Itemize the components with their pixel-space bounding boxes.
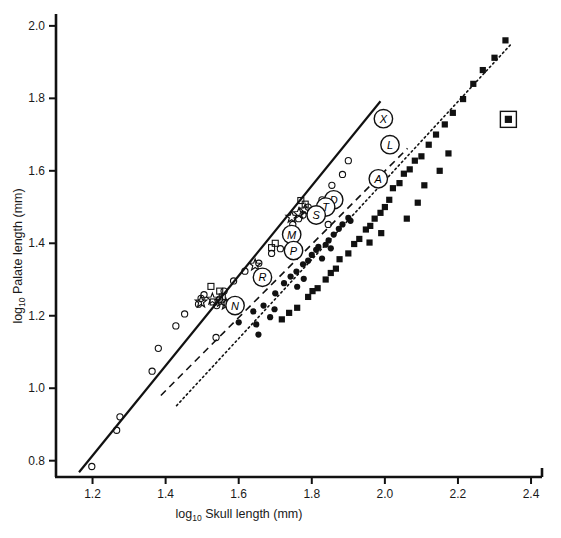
y-tick-label: 1.6 <box>28 164 45 178</box>
point-filled-square <box>412 158 418 164</box>
point-filled-circle <box>309 252 315 258</box>
point-open-circle <box>182 311 188 317</box>
point-filled-square <box>333 266 339 272</box>
point-open-circle <box>268 250 274 256</box>
point-filled-square <box>279 316 285 322</box>
point-filled-circle <box>267 314 273 320</box>
point-filled-circle <box>271 306 277 312</box>
group-label-l: L <box>381 136 399 154</box>
point-filled-square <box>382 204 388 210</box>
point-filled-circle <box>287 274 293 280</box>
axis-layer: 0.81.01.21.41.61.82.01.21.41.61.82.02.22… <box>28 14 542 501</box>
group-label-a: A <box>369 170 387 188</box>
point-filled-square <box>367 223 373 229</box>
point-filled-circle <box>301 276 307 282</box>
series-filled-square <box>279 37 509 322</box>
point-filled-square <box>386 197 392 203</box>
point-filled-square <box>305 294 311 300</box>
point-open-circle <box>345 158 351 164</box>
y-tick-label: 1.4 <box>28 236 45 250</box>
y-tick-label: 2.0 <box>28 19 45 33</box>
point-filled-square <box>450 110 456 116</box>
point-filled-square <box>404 216 410 222</box>
point-open-circle <box>173 323 179 329</box>
y-tick-label: 1.8 <box>28 91 45 105</box>
point-filled-square <box>480 67 486 73</box>
point-filled-square <box>356 236 362 242</box>
point-filled-circle <box>294 284 300 290</box>
point-filled-circle <box>319 255 325 261</box>
x-axis-title: log10 Skull length (mm) <box>176 507 303 523</box>
point-filled-square <box>407 166 413 172</box>
x-tick-label: 2.0 <box>377 487 394 501</box>
group-label-letter: L <box>387 139 393 151</box>
point-filled-square <box>418 153 424 159</box>
point-filled-circle <box>339 221 345 227</box>
point-filled-circle <box>300 261 306 267</box>
point-filled-circle <box>325 237 331 243</box>
point-open-circle <box>89 463 95 469</box>
x-tick-label: 1.6 <box>230 487 247 501</box>
point-filled-square <box>426 142 432 148</box>
dashed-fit-line <box>161 148 408 395</box>
point-filled-square <box>345 250 351 256</box>
point-filled-square <box>372 216 378 222</box>
group-label-letter: N <box>231 300 239 312</box>
point-filled-circle <box>272 290 278 296</box>
x-tick-label: 1.8 <box>303 487 320 501</box>
group-label-r: R <box>253 268 271 286</box>
group-labels-layer: XLADTSMPRN <box>226 109 399 314</box>
group-label-s: S <box>307 206 325 224</box>
point-filled-square <box>315 285 321 291</box>
point-filled-square <box>470 81 476 87</box>
point-filled-circle <box>328 245 334 251</box>
point-filled-square <box>323 276 329 282</box>
x-tick-label: 1.4 <box>157 487 174 501</box>
point-filled-square <box>377 210 383 216</box>
point-open-circle <box>149 368 155 374</box>
point-filled-square <box>437 168 443 174</box>
x-tick-label: 2.4 <box>523 487 540 501</box>
group-label-x: X <box>374 109 392 127</box>
group-label-letter: A <box>374 173 382 185</box>
point-filled-square <box>396 180 402 186</box>
point-filled-square <box>336 256 342 262</box>
point-open-circle <box>155 345 161 351</box>
x-tick-label: 2.2 <box>450 487 467 501</box>
group-label-letter: R <box>258 271 266 283</box>
group-label-letter: P <box>290 245 298 257</box>
point-filled-square <box>378 230 384 236</box>
point-filled-circle <box>315 244 321 250</box>
point-filled-square <box>502 37 508 43</box>
group-label-letter: S <box>313 209 321 221</box>
point-filled-circle <box>331 231 337 237</box>
point-filled-square <box>390 185 396 191</box>
point-filled-square <box>415 200 421 206</box>
point-filled-circle <box>281 280 287 286</box>
y-tick-label: 1.2 <box>28 309 45 323</box>
group-label-p: P <box>284 241 302 259</box>
x-tick-label: 1.2 <box>84 487 101 501</box>
group-label-letter: X <box>379 113 388 125</box>
plot-canvas: 0.81.01.21.41.61.82.01.21.41.61.82.02.22… <box>0 0 561 538</box>
scatter-plot-figure: 0.81.01.21.41.61.82.01.21.41.61.82.02.22… <box>0 0 561 538</box>
point-filled-square <box>421 182 427 188</box>
point-filled-circle <box>255 331 261 337</box>
group-label-n: N <box>226 296 244 314</box>
point-open-circle <box>339 171 345 177</box>
point-filled-circle <box>305 258 311 264</box>
point-open-square <box>269 245 275 251</box>
y-tick-label: 1.0 <box>28 381 45 395</box>
point-filled-circle <box>293 268 299 274</box>
point-filled-square <box>433 131 439 137</box>
point-filled-square <box>442 121 448 127</box>
point-filled-circle <box>253 321 259 327</box>
point-open-circle <box>117 414 123 420</box>
point-filled-square <box>491 55 497 61</box>
group-label-letter: M <box>287 229 297 241</box>
point-open-square <box>208 283 214 289</box>
point-filled-circle <box>260 303 266 309</box>
y-tick-label: 0.8 <box>28 454 45 468</box>
point-filled-square <box>286 310 292 316</box>
point-filled-square <box>366 239 372 245</box>
